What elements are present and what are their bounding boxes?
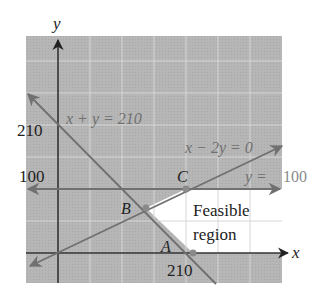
label-x-plus-y-210: x + y = 210: [65, 110, 142, 128]
label-x-minus-2y-0: x − 2y = 0: [184, 139, 253, 157]
label-y-100-left: y =: [243, 168, 267, 186]
feasible-region-label-line2: region: [193, 225, 237, 244]
point-c-label: C: [177, 168, 188, 185]
x-axis-label: x: [291, 243, 300, 262]
point-c: [183, 186, 190, 193]
label-y-100-right: 100: [283, 168, 307, 185]
feasible-region-diagram: y x 210 100 210 x + y = 210 x − 2y = 0 y…: [0, 0, 332, 298]
tick-label-y-210: 210: [17, 121, 43, 140]
y-axis-label: y: [51, 14, 61, 33]
tick-label-y-100: 100: [19, 167, 45, 186]
point-b-label: B: [121, 200, 131, 217]
feasible-region-label-line1: Feasible: [193, 201, 250, 220]
point-b: [143, 205, 150, 212]
point-a: [190, 250, 197, 257]
point-a-label: A: [160, 238, 171, 255]
tick-label-x-210: 210: [167, 261, 193, 280]
